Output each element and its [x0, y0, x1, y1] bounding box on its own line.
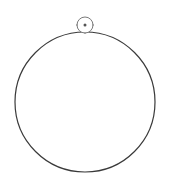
handle-right-nub: [92, 24, 94, 26]
handle-bottom-nub: [84, 32, 86, 34]
circle-shape[interactable]: [15, 32, 155, 172]
rotate-handle-center-dot: [84, 24, 87, 27]
handle-left-nub: [76, 24, 78, 26]
canvas-svg: [0, 0, 170, 190]
rotation-handle[interactable]: [76, 17, 94, 34]
drawing-canvas[interactable]: [0, 0, 170, 190]
